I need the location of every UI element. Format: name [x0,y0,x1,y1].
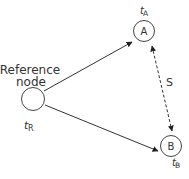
node-a: A [134,21,155,42]
node-a-time-label: t A [140,5,149,18]
diagram-canvas: Reference node t R A t A B t B S [0,0,189,179]
svg-text:B: B [175,161,180,170]
svg-text:R: R [28,124,34,133]
reference-node-label-line2: node [16,75,46,89]
reference-node [22,88,45,111]
node-a-label: A [141,26,148,37]
node-b: B [161,136,182,157]
distance-label: S [166,76,173,89]
arrow-reference-to-b [45,105,158,151]
reference-time-label: t R [24,119,34,133]
node-b-label: B [168,141,175,152]
svg-text:A: A [143,9,149,18]
node-b-time-label: t B [172,157,180,170]
